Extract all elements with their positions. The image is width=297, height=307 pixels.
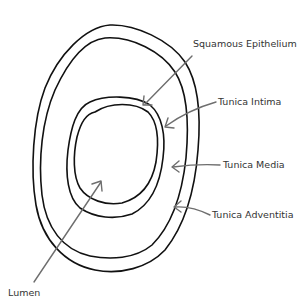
label-tunica-media: Tunica Media: [223, 160, 285, 170]
label-squamous-epithelium: Squamous Epithelium: [193, 39, 297, 49]
outer-adventitia-boundary: [33, 25, 199, 272]
label-tunica-intima: Tunica Intima: [218, 97, 281, 107]
tunica-intima-arrow: [165, 102, 216, 128]
label-lumen: Lumen: [8, 288, 40, 298]
label-tunica-adventitia: Tunica Adventitia: [212, 210, 294, 220]
intima-outer-boundary: [67, 97, 164, 217]
tunica-adventitia-arrow: [174, 201, 210, 215]
media-adventitia-boundary: [41, 38, 188, 258]
lumen-boundary: [74, 105, 157, 204]
